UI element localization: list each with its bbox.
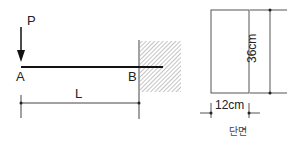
section-caption: 단면 xyxy=(229,127,247,137)
diagram-canvas: P A B L 36cm 12cm 단면 xyxy=(0,0,298,149)
length-label: L xyxy=(75,87,82,100)
load-label: P xyxy=(27,14,36,27)
point-a-label: A xyxy=(16,70,25,83)
height-label: 36cm xyxy=(246,34,258,63)
point-b-label: B xyxy=(128,70,137,83)
cross-section-rect xyxy=(211,10,249,93)
load-arrow-icon xyxy=(17,27,25,62)
width-label: 12cm xyxy=(215,99,244,111)
diagram-drawing xyxy=(0,0,298,149)
